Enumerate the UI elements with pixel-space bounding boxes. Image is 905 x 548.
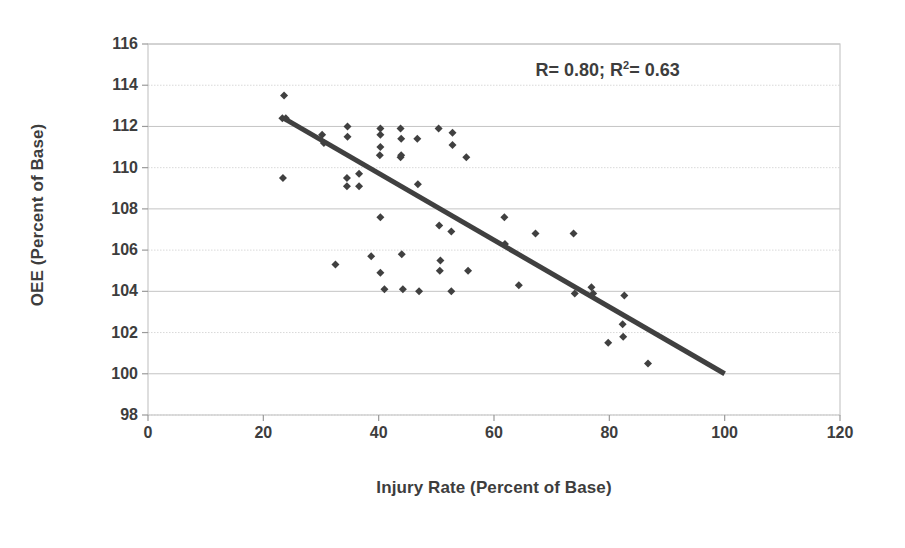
grid-lines: [148, 44, 840, 415]
correlation-annotation: R= 0.80; R2= 0.63: [535, 59, 679, 81]
axis-frame: [148, 44, 840, 415]
plot-area-svg: [0, 0, 905, 548]
axis-ticks: [142, 44, 840, 421]
annotation-prefix: R= 0.80; R: [535, 60, 623, 80]
annotation-suffix: = 0.63: [629, 60, 680, 80]
scatter-chart: OEE (Percent of Base) 981001021041061081…: [0, 0, 905, 548]
trend-line: [284, 118, 725, 374]
x-axis-title: Injury Rate (Percent of Base): [148, 478, 840, 498]
data-points: [278, 92, 652, 368]
x-axis-title-text: Injury Rate (Percent of Base): [376, 478, 611, 497]
